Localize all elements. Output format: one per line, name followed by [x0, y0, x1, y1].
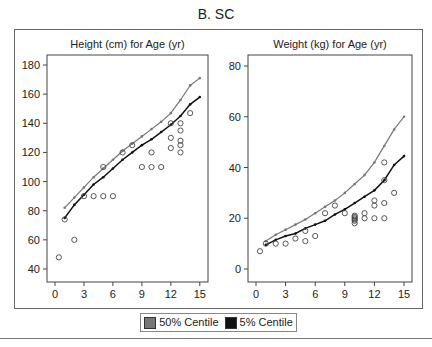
- svg-text:160: 160: [22, 88, 40, 100]
- legend-item-5: 5% Centile: [225, 316, 293, 329]
- svg-text:60: 60: [229, 111, 241, 123]
- svg-text:100: 100: [22, 176, 40, 188]
- svg-text:40: 40: [229, 162, 241, 174]
- divider: [0, 338, 432, 339]
- height-for-age-chart: 4060801001201401601800369121502040608003…: [0, 0, 432, 347]
- svg-text:12: 12: [165, 288, 177, 300]
- svg-text:120: 120: [22, 146, 40, 158]
- svg-text:0: 0: [253, 288, 259, 300]
- svg-text:20: 20: [229, 212, 241, 224]
- legend-item-50: 50% Centile: [144, 316, 218, 329]
- svg-text:15: 15: [194, 288, 206, 300]
- svg-text:180: 180: [22, 59, 40, 71]
- svg-text:6: 6: [312, 288, 318, 300]
- svg-text:12: 12: [368, 288, 380, 300]
- svg-text:0: 0: [52, 288, 58, 300]
- svg-text:140: 140: [22, 117, 40, 129]
- svg-text:15: 15: [398, 288, 410, 300]
- svg-text:3: 3: [283, 288, 289, 300]
- svg-text:0: 0: [235, 263, 241, 275]
- svg-text:6: 6: [110, 288, 116, 300]
- svg-text:60: 60: [28, 234, 40, 246]
- legend-swatch-50-icon: [144, 317, 156, 329]
- legend-swatch-5-icon: [225, 317, 237, 329]
- svg-text:80: 80: [28, 205, 40, 217]
- svg-text:9: 9: [139, 288, 145, 300]
- svg-text:9: 9: [342, 288, 348, 300]
- svg-text:40: 40: [28, 263, 40, 275]
- svg-text:3: 3: [81, 288, 87, 300]
- legend: 50% Centile 5% Centile: [140, 313, 297, 332]
- svg-text:80: 80: [229, 60, 241, 72]
